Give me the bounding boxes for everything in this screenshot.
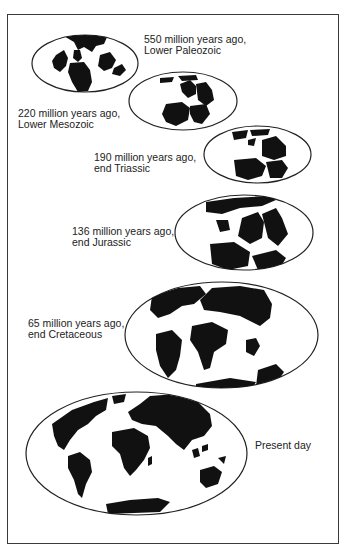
stage-period: end Cretaceous bbox=[28, 329, 124, 340]
stage-label-220ma: 220 million years ago, Lower Mesozoic bbox=[18, 108, 120, 130]
globe-map-65ma bbox=[125, 282, 318, 392]
stage-period: Lower Paleozoic bbox=[144, 45, 246, 56]
stage-label-present-day: Present day bbox=[255, 440, 311, 451]
stage-age: Present day bbox=[255, 440, 311, 451]
globe-map-220ma bbox=[129, 72, 237, 130]
stage-label-136ma: 136 million years ago, end Jurassic bbox=[72, 226, 174, 248]
stage-period: Lower Mesozoic bbox=[18, 119, 120, 130]
globe-map-550ma bbox=[32, 35, 138, 92]
globe-map-190ma bbox=[204, 126, 311, 183]
globe-map-136ma bbox=[175, 195, 313, 270]
globe-map-present-day bbox=[26, 392, 247, 515]
stage-period: end Jurassic bbox=[72, 237, 174, 248]
stage-label-65ma: 65 million years ago, end Cretaceous bbox=[28, 318, 124, 340]
stage-label-190ma: 190 million years ago, end Triassic bbox=[94, 152, 196, 174]
stage-label-550ma: 550 million years ago, Lower Paleozoic bbox=[144, 34, 246, 56]
stage-period: end Triassic bbox=[94, 163, 196, 174]
